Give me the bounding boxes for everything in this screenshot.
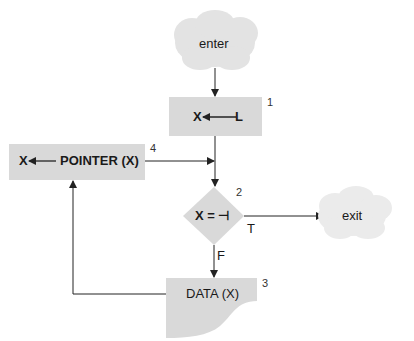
decision-label: X = ⊣: [195, 208, 230, 223]
assign-left-label: X: [193, 109, 202, 124]
enter-label: enter: [199, 36, 229, 51]
edge-data-to-pointer: [73, 181, 166, 294]
pointer-right-label: POINTER (X): [60, 153, 139, 168]
decision-step-number: 2: [236, 186, 242, 198]
exit-label: exit: [342, 208, 362, 223]
true-branch-label: T: [247, 221, 255, 236]
assign-step-number: 1: [267, 96, 273, 108]
data-step-number: 3: [262, 277, 268, 289]
assign-right-label: L: [235, 109, 243, 124]
data-label: DATA (X): [186, 286, 239, 301]
pointer-left-label: X: [19, 153, 28, 168]
false-branch-label: F: [217, 248, 225, 263]
pointer-step-number: 4: [150, 142, 156, 154]
